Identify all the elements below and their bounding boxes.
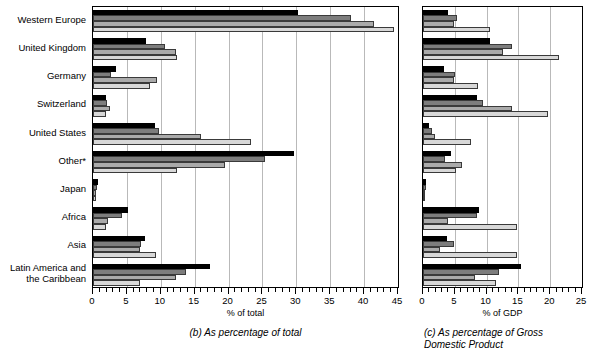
minor-tick <box>133 288 134 292</box>
category-label: Other* <box>59 156 86 167</box>
bar-group <box>93 95 398 117</box>
bar-group <box>423 38 582 60</box>
caption-panel-c: (c) As percentage of Gross Domestic Prod… <box>424 327 599 351</box>
minor-tick <box>562 288 563 292</box>
minor-tick <box>370 288 371 292</box>
minor-tick <box>377 288 378 292</box>
bar-group <box>93 179 398 201</box>
minor-tick <box>511 288 512 292</box>
bar-group <box>93 264 398 286</box>
minor-tick <box>505 288 506 292</box>
major-tick <box>194 288 195 294</box>
minor-tick <box>568 288 569 292</box>
bar-group <box>423 66 582 88</box>
category-label: United States <box>29 128 86 139</box>
minor-tick <box>473 288 474 292</box>
bar <box>93 168 177 174</box>
minor-tick <box>356 288 357 292</box>
x-tick-label: 10 <box>154 295 165 306</box>
major-tick <box>160 288 161 294</box>
bar <box>423 196 425 202</box>
minor-tick <box>200 288 201 292</box>
major-tick <box>581 288 582 294</box>
minor-tick <box>383 288 384 292</box>
x-tick-label: 20 <box>544 295 555 306</box>
x-tick-label: 25 <box>256 295 267 306</box>
bar <box>423 252 517 258</box>
caption-panel-b: (b) As percentage of total <box>92 327 399 339</box>
minor-tick <box>167 288 168 292</box>
major-tick <box>126 288 127 294</box>
x-tick-label: 15 <box>512 295 523 306</box>
minor-tick <box>460 288 461 292</box>
minor-tick <box>441 288 442 292</box>
x-tick-label: 0 <box>89 295 94 306</box>
bar <box>93 139 251 145</box>
category-label: United Kingdom <box>18 43 86 54</box>
bar <box>93 196 96 202</box>
bar <box>93 27 394 33</box>
minor-tick <box>498 288 499 292</box>
category-label: Latin America and the Caribbean <box>10 263 86 284</box>
major-tick <box>228 288 229 294</box>
category-label: Switzerland <box>37 99 86 110</box>
bar <box>423 55 559 61</box>
bar <box>423 83 478 89</box>
minor-tick <box>428 288 429 292</box>
bar-group <box>423 151 582 173</box>
major-tick <box>92 288 93 294</box>
minor-tick <box>336 288 337 292</box>
minor-tick <box>575 288 576 292</box>
bar-group <box>423 95 582 117</box>
x-tick-label: 25 <box>576 295 587 306</box>
minor-tick <box>556 288 557 292</box>
x-tick-label: 10 <box>480 295 491 306</box>
minor-tick <box>119 288 120 292</box>
minor-tick <box>146 288 147 292</box>
x-tick-label: 5 <box>451 295 456 306</box>
minor-tick <box>112 288 113 292</box>
bar <box>423 280 496 286</box>
minor-tick <box>139 288 140 292</box>
category-label: Asia <box>68 240 86 251</box>
minor-tick <box>524 288 525 292</box>
minor-tick <box>479 288 480 292</box>
minor-tick <box>221 288 222 292</box>
minor-tick <box>302 288 303 292</box>
bar-group <box>423 179 582 201</box>
minor-tick <box>207 288 208 292</box>
bar-group <box>93 66 398 88</box>
minor-tick <box>187 288 188 292</box>
major-tick <box>363 288 364 294</box>
bar <box>93 83 150 89</box>
minor-tick <box>435 288 436 292</box>
major-tick <box>295 288 296 294</box>
category-label: Africa <box>62 212 86 223</box>
figure-root: Western EuropeUnited KingdomGermanySwitz… <box>0 0 599 358</box>
bar <box>93 224 106 230</box>
x-tick-label: 40 <box>358 295 369 306</box>
minor-tick <box>282 288 283 292</box>
minor-tick <box>343 288 344 292</box>
major-tick <box>397 288 398 294</box>
minor-tick <box>492 288 493 292</box>
x-axis-title-c: % of GDP <box>422 308 583 318</box>
bar <box>423 139 471 145</box>
chart-panel-c <box>422 6 583 288</box>
minor-tick <box>289 288 290 292</box>
minor-tick <box>543 288 544 292</box>
bar-group <box>93 123 398 145</box>
bar <box>93 280 140 286</box>
tick-marks <box>422 288 583 297</box>
minor-tick <box>106 288 107 292</box>
major-tick <box>422 288 423 294</box>
bar <box>423 27 490 33</box>
major-tick <box>549 288 550 294</box>
chart-panel-b <box>92 6 399 288</box>
x-tick-label: 20 <box>222 295 233 306</box>
x-axis-panel-b: 051015202530354045 <box>92 288 399 310</box>
bar-group <box>93 38 398 60</box>
x-tick-label: 30 <box>290 295 301 306</box>
bar-group <box>93 207 398 229</box>
bar-group <box>423 10 582 32</box>
